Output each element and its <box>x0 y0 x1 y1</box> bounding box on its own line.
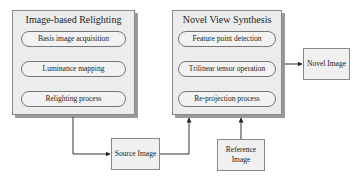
connector-arrows <box>0 0 361 181</box>
